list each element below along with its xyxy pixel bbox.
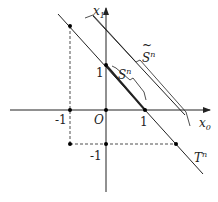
point <box>104 142 108 146</box>
tick-x-neg: -1 <box>55 113 67 127</box>
point <box>143 108 147 112</box>
label-S-tilde: Sn <box>142 50 155 65</box>
label-S-tilde-accent: ~ <box>142 38 152 52</box>
label-T: Tn <box>194 150 207 165</box>
point <box>174 142 178 146</box>
tick-x-pos: 1 <box>140 115 148 129</box>
tick-y-pos: 1 <box>96 66 104 80</box>
point <box>104 108 108 112</box>
point <box>68 142 72 146</box>
y-axis-label: x1 <box>93 4 105 20</box>
point <box>68 24 72 28</box>
tick-y-neg: -1 <box>90 149 102 163</box>
diagram-canvas: x1 x0 O -1 1 1 -1 Tn Sn Sn ~ <box>0 0 218 202</box>
origin-label: O <box>94 113 104 127</box>
point <box>104 63 108 67</box>
x-axis-label: x0 <box>199 116 211 132</box>
point <box>68 108 72 112</box>
